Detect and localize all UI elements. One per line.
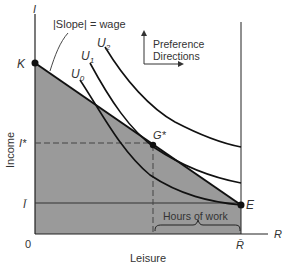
preference-label-line2: Directions [153,50,200,62]
r-bar-label: R̄ [236,239,244,251]
origin-label: 0 [25,238,31,250]
u2-label: U2 [97,36,111,52]
x-axis-label: Leisure [130,252,166,264]
arrow-up-head-icon [141,30,147,36]
labor-leisure-diagram: I |Slope| = wage K U2 U1 U0 Preference D… [0,0,290,271]
i-bar-label: Ī [23,198,28,210]
u0-label: U0 [71,67,85,83]
x-axis-symbol: R [274,228,282,240]
hours-of-work-label: Hours of work [163,210,229,222]
preference-label-line1: Preference [153,38,205,50]
y-axis-label: Income [4,132,16,168]
budget-set-region [35,63,241,234]
e-label: E [246,198,255,212]
point-k [32,60,39,67]
slope-label: |Slope| = wage [53,18,126,30]
point-g-star [150,142,156,148]
slope-leader-line [50,33,68,71]
u1-label: U1 [81,49,94,65]
g-star-label: G* [153,129,167,141]
point-e [238,202,245,209]
y-axis-symbol: I [33,3,36,15]
i-star-label: I* [19,137,27,149]
k-label: K [17,57,26,71]
